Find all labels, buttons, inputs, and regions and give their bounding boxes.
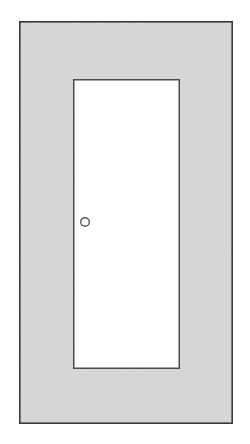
door-knob-circle [81,218,90,227]
figure-canvas: Door Panel Elevation Line drawing of a r… [0,0,250,444]
door-panel-drawing [0,0,250,444]
